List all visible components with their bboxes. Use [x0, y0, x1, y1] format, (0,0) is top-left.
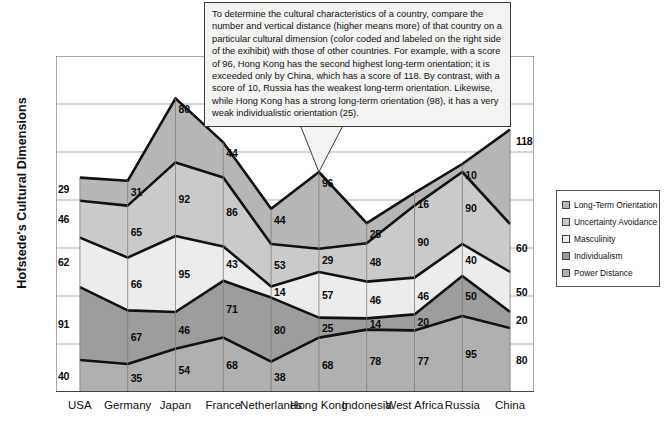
legend-swatch-icon — [562, 252, 570, 260]
value-label: 78 — [370, 356, 381, 367]
value-label: 95 — [179, 269, 190, 280]
value-label: 65 — [131, 227, 142, 238]
value-label: 29 — [322, 255, 333, 266]
value-label: 46 — [370, 295, 381, 306]
value-label: 80 — [516, 355, 527, 366]
x-tick-usa: USA — [68, 399, 92, 411]
annotation-callout: To determine the cultural characteristic… — [204, 2, 511, 127]
chart-legend: Long-Term OrientationUncertainty Avoidan… — [556, 190, 660, 287]
value-label: 68 — [322, 360, 333, 371]
legend-label: Long-Term Orientation — [574, 200, 657, 210]
value-label: 29 — [58, 184, 69, 195]
value-label: 80 — [274, 325, 285, 336]
x-tick-germany: Germany — [104, 399, 151, 411]
value-label: 16 — [418, 199, 429, 210]
legend-item-masculinity[interactable]: Masculinity — [562, 230, 655, 247]
value-label: 66 — [131, 279, 142, 290]
value-label: 50 — [465, 291, 476, 302]
value-label: 46 — [58, 214, 69, 225]
value-label: 91 — [58, 319, 69, 330]
value-label: 46 — [179, 325, 190, 336]
hofstede-cultural-dimensions-chart: Hofstede's Cultural Dimensions USAGerman… — [0, 0, 665, 422]
y-axis-title: Hofstede's Cultural Dimensions — [15, 73, 29, 313]
value-label: 54 — [179, 365, 190, 376]
annotation-text: To determine the cultural characteristic… — [212, 9, 502, 118]
value-label: 62 — [58, 257, 69, 268]
legend-item-power-distance[interactable]: Power Distance — [562, 264, 655, 281]
value-label: 14 — [370, 319, 381, 330]
value-label: 14 — [274, 287, 285, 298]
value-label: 71 — [226, 304, 237, 315]
value-label: 80 — [179, 104, 190, 115]
value-label: 20 — [418, 317, 429, 328]
value-label: 48 — [370, 257, 381, 268]
value-label: 92 — [179, 194, 190, 205]
value-label: 95 — [465, 349, 476, 360]
x-tick-france: France — [205, 399, 241, 411]
value-label: 96 — [322, 178, 333, 189]
value-label: 53 — [274, 260, 285, 271]
legend-swatch-icon — [562, 269, 570, 277]
value-label: 31 — [131, 187, 142, 198]
x-tick-china: China — [495, 399, 525, 411]
legend-item-long-term-orientation[interactable]: Long-Term Orientation — [562, 196, 655, 213]
legend-label: Masculinity — [574, 234, 615, 244]
legend-label: Uncertainty Avoidance — [574, 217, 657, 227]
value-label: 25 — [370, 229, 381, 240]
value-label: 44 — [226, 148, 237, 159]
value-label: 44 — [274, 215, 285, 226]
value-label: 10 — [465, 170, 476, 181]
legend-swatch-icon — [562, 235, 570, 243]
value-label: 35 — [131, 373, 142, 384]
value-label: 40 — [465, 255, 476, 266]
x-tick-japan: Japan — [160, 399, 191, 411]
value-label: 57 — [322, 290, 333, 301]
value-label: 38 — [274, 372, 285, 383]
x-tick-russia: Russia — [445, 399, 480, 411]
value-label: 77 — [418, 356, 429, 367]
value-label: 90 — [418, 237, 429, 248]
legend-label: Individualism — [574, 251, 622, 261]
legend-swatch-icon — [562, 201, 570, 209]
x-tick-hong-kong: Hong Kong — [290, 399, 348, 411]
value-label: 46 — [418, 291, 429, 302]
legend-swatch-icon — [562, 218, 570, 226]
x-tick-indonesia: Indonesia — [342, 399, 392, 411]
value-label: 68 — [226, 360, 237, 371]
legend-label: Power Distance — [574, 268, 633, 278]
value-label: 86 — [226, 207, 237, 218]
value-label: 67 — [131, 332, 142, 343]
value-label: 43 — [226, 259, 237, 270]
value-label: 25 — [322, 323, 333, 334]
legend-item-individualism[interactable]: Individualism — [562, 247, 655, 264]
value-label: 40 — [58, 371, 69, 382]
value-label: 20 — [516, 315, 527, 326]
value-label: 118 — [516, 136, 532, 147]
value-label: 50 — [516, 287, 527, 298]
value-label: 60 — [516, 243, 527, 254]
legend-item-uncertainty-avoidance[interactable]: Uncertainty Avoidance — [562, 213, 655, 230]
value-label: 90 — [465, 203, 476, 214]
x-tick-west-africa: West Africa — [386, 399, 444, 411]
